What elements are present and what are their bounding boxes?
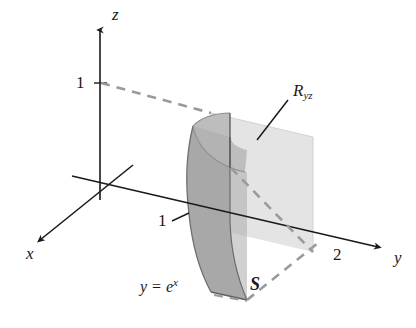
leader-x1 bbox=[172, 213, 189, 221]
region-label-ryz: Ryz bbox=[293, 82, 313, 101]
axis-label-y: y bbox=[394, 249, 402, 266]
region-label-base: R bbox=[293, 81, 303, 100]
curve-equation-label: y = ex bbox=[140, 277, 178, 295]
tick-label-z-1: 1 bbox=[76, 74, 85, 91]
axis-label-z: z bbox=[112, 6, 119, 23]
curve-equation-text: y = e bbox=[140, 278, 173, 295]
tick-label-x-1: 1 bbox=[158, 212, 167, 229]
region-label-subscript: yz bbox=[303, 89, 312, 101]
diagram-canvas bbox=[0, 0, 416, 328]
figure-3d-region: z y x 1 1 2 Ryz y = ex S bbox=[0, 0, 416, 328]
tick-label-y-2: 2 bbox=[333, 246, 342, 263]
curve-equation-exponent: x bbox=[173, 276, 178, 288]
dash-z1-to-cylinder-top bbox=[101, 83, 211, 113]
surface-label-s: S bbox=[250, 275, 260, 293]
axis-label-x: x bbox=[26, 245, 34, 262]
